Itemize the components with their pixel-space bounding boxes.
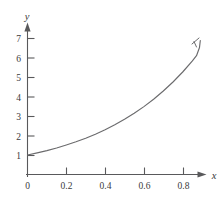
y-tick-label-5: 5: [16, 73, 21, 83]
x-tick-label-0-4: 0.4: [100, 181, 112, 191]
x-axis-arrow-icon: [198, 171, 207, 177]
y-tick-label-4: 4: [16, 93, 21, 103]
y-tick-label-2: 2: [16, 132, 21, 142]
curve-end-tick-icon: [194, 42, 197, 48]
y-axis-arrow-icon: [24, 23, 30, 32]
x-axis-label: x: [211, 170, 217, 181]
y-tick-label-1: 1: [16, 151, 21, 161]
x-tick-label-0-8: 0.8: [178, 181, 190, 191]
x-tick-label-0-2: 0.2: [61, 181, 73, 191]
x-tick-label-0-6: 0.6: [139, 181, 151, 191]
curve-end-mark-icon: [192, 38, 199, 44]
y-tick-label-6: 6: [16, 54, 21, 64]
plot-canvas: 1 2 3 4 5 6 7 0 0.2 0.4 0.6 0.8 y x: [0, 0, 222, 205]
curve-exponential: [28, 41, 201, 156]
x-tick-label-0: 0: [25, 181, 30, 191]
chart-figure: 1 2 3 4 5 6 7 0 0.2 0.4 0.6 0.8 y x: [0, 0, 222, 205]
y-axis-label: y: [24, 11, 30, 22]
y-tick-label-7: 7: [16, 34, 21, 44]
y-tick-label-3: 3: [16, 112, 21, 122]
